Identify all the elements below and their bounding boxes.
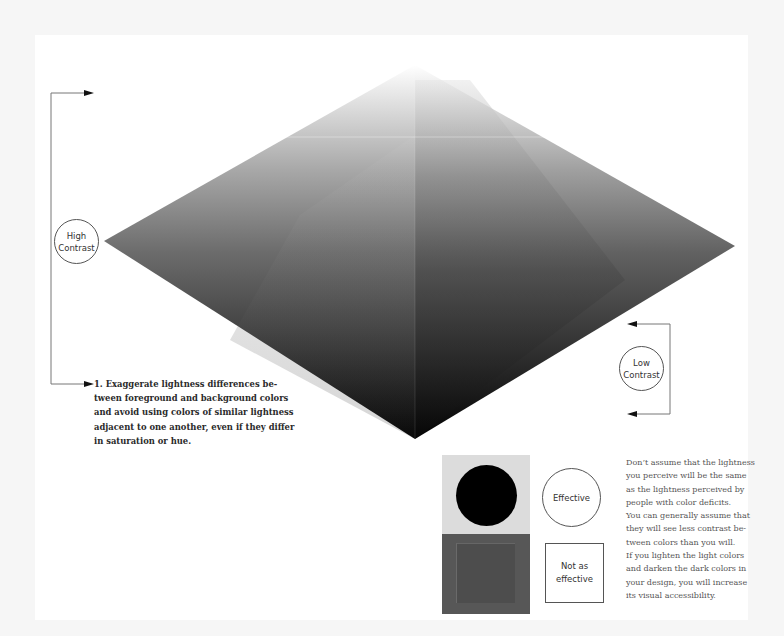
tip-caption-line: and avoid using colors of similar lightn… bbox=[94, 405, 309, 419]
tip-caption-line: adjacent to one another, even if they di… bbox=[94, 420, 309, 434]
note-line: you perceive will be the same bbox=[626, 469, 754, 482]
high-contrast-label: High Contrast bbox=[54, 219, 99, 264]
accessibility-note: Don’t assume that the lightness you perc… bbox=[626, 456, 754, 602]
note-line: your design, you will increase bbox=[626, 576, 754, 589]
note-line: people with color deficits. bbox=[626, 496, 754, 509]
effective-label: Effective bbox=[542, 468, 601, 527]
high-contrast-label-line2: Contrast bbox=[58, 242, 94, 254]
sample-black-circle bbox=[456, 465, 517, 526]
tip-caption: 1. Exaggerate lightness differences be- … bbox=[94, 377, 309, 448]
not-as-effective-label: Not as effective bbox=[545, 543, 604, 603]
low-contrast-label-line2: Contrast bbox=[623, 369, 659, 381]
note-line: as the lightness perceived by bbox=[626, 483, 754, 496]
note-line: Don’t assume that the lightness bbox=[626, 456, 754, 469]
not-as-effective-line2: effective bbox=[556, 573, 593, 586]
low-contrast-label: Low Contrast bbox=[619, 346, 664, 391]
high-contrast-label-line1: High bbox=[58, 230, 94, 242]
arrow-right-icon bbox=[84, 381, 94, 387]
note-line: If you lighten the light colors bbox=[626, 549, 754, 562]
note-line: its visual accessibility. bbox=[626, 589, 754, 602]
not-as-effective-line1: Not as bbox=[556, 560, 593, 573]
tip-caption-line: 1. Exaggerate lightness differences be- bbox=[94, 377, 309, 391]
arrow-left-icon bbox=[627, 411, 637, 417]
arrow-left-icon bbox=[627, 321, 637, 327]
note-line: and darken the dark colors in bbox=[626, 562, 754, 575]
note-line: You can generally assume that bbox=[626, 509, 754, 522]
note-line: they will see less contrast be- bbox=[626, 522, 754, 535]
low-contrast-label-line1: Low bbox=[623, 357, 659, 369]
effective-label-text: Effective bbox=[553, 492, 590, 504]
tip-caption-line: tween foreground and background colors bbox=[94, 391, 309, 405]
sample-dark-inner-square bbox=[456, 543, 515, 603]
note-line: tween colors than you will. bbox=[626, 536, 754, 549]
tip-caption-line: in saturation or hue. bbox=[94, 434, 309, 448]
arrow-right-icon bbox=[84, 90, 94, 96]
